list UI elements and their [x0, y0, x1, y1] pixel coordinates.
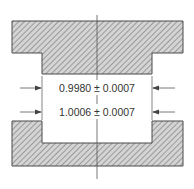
slot-width-label: 1.0006 ± 0.0007 — [59, 106, 135, 118]
arrow-left-icon — [152, 86, 159, 91]
arrow-right-icon — [35, 110, 42, 115]
tolerance-diagram: 0.9980 ± 0.0007 1.0006 ± 0.0007 — [0, 0, 194, 189]
top-part-section — [12, 21, 183, 74]
bottom-part-section — [12, 121, 183, 166]
arrow-left-icon — [152, 110, 159, 115]
tongue-width-label: 0.9980 ± 0.0007 — [59, 82, 135, 94]
arrow-right-icon — [35, 86, 42, 91]
